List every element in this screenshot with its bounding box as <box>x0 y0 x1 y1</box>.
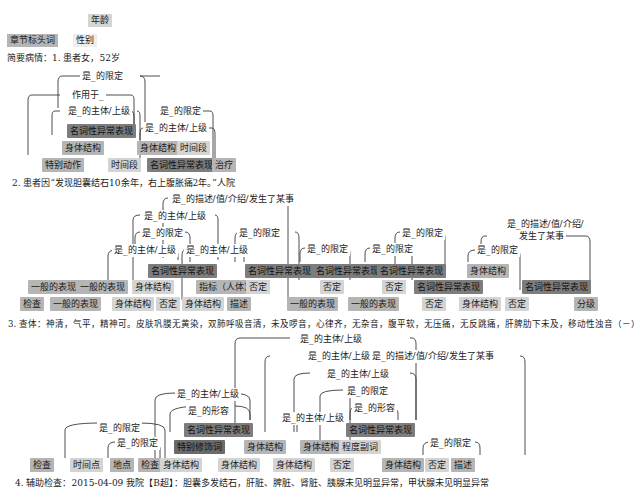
entity-tag[interactable]: 否定 <box>156 297 180 311</box>
relation-label: 是_的限定 <box>97 422 142 435</box>
entity-tag[interactable]: 名词性异常表现 <box>67 124 136 138</box>
entity-tag[interactable]: 检查 <box>20 297 44 311</box>
relation-label: 是_的限定 <box>158 105 203 118</box>
relation-label: 是_的限定 <box>475 244 520 257</box>
sentence-3: 3. 查体：神清，气平，精神可。皮肤巩膜无黄染，双肺呼吸音清，未及啰音，心律齐，… <box>8 318 639 330</box>
entity-tag[interactable]: 身体结构 <box>467 264 509 278</box>
entity-tag[interactable]: 否定 <box>330 458 354 472</box>
relation-label: 是_的主体/上级 <box>112 244 178 257</box>
entity-tag[interactable]: 名词性异常表现 <box>147 158 216 172</box>
relation-label: 发生了某事 <box>517 230 566 243</box>
entity-tag[interactable]: 程度副词 <box>339 440 381 454</box>
entity-tag[interactable]: 否定 <box>422 297 446 311</box>
entity-tag[interactable]: 否定 <box>382 280 406 294</box>
entity-tag[interactable]: 分级 <box>574 297 598 311</box>
entity-tag[interactable]: 名词性异常表现 <box>184 423 253 437</box>
entity-tag[interactable]: 身体结构 <box>160 458 202 472</box>
entity-tag[interactable]: 身体结构 <box>62 141 104 155</box>
entity-tag[interactable]: 检查 <box>138 458 162 472</box>
sentence-4: 4. 辅助检查：2015-04-09 我院【B超】：胆囊多发结石，肝脏、脾脏、肾… <box>15 477 489 489</box>
entity-tag[interactable]: 时间段 <box>177 141 210 155</box>
entity-tag[interactable]: 一般的表现 <box>28 280 79 294</box>
entity-tag[interactable]: 否定 <box>246 280 270 294</box>
relation-label: 是_的限定 <box>237 227 282 240</box>
entity-tag[interactable]: 名词性异常表现 <box>377 264 446 278</box>
entity-tag[interactable]: 一般的表现 <box>287 297 338 311</box>
entity-tag[interactable]: 名词性异常表现 <box>522 280 591 294</box>
entity-tag[interactable]: 身体结构 <box>273 458 315 472</box>
relation-label: 是_的限定 <box>80 70 125 83</box>
entity-tag[interactable]: 特别动作 <box>42 158 84 172</box>
relation-label: 是_的限定 <box>400 227 445 240</box>
entity-tag[interactable]: 描述 <box>227 297 251 311</box>
entity-tag[interactable]: 名词性异常表现 <box>245 264 314 278</box>
entity-tag[interactable]: 名词性异常表现 <box>414 280 483 294</box>
entity-tag[interactable]: 检查 <box>30 458 54 472</box>
entity-tag[interactable]: 一般的表现 <box>50 297 101 311</box>
entity-tag[interactable]: 治疗 <box>212 158 236 172</box>
entity-tag[interactable]: 时间点 <box>70 458 103 472</box>
relation-label: 是_的主体/上级 <box>142 210 208 223</box>
entity-tag[interactable]: 身体结构 <box>300 440 342 454</box>
relation-label: 是_的主体/上级 <box>175 388 241 401</box>
sentence-1: 简要病情：1. 患者女，52岁 <box>7 52 120 64</box>
entity-tag[interactable]: 否定 <box>425 458 449 472</box>
relation-label: 作用于_ <box>70 89 106 102</box>
relation-label: 是_的限定 <box>345 385 390 398</box>
relation-label: 是_的主体/上级 <box>306 350 372 363</box>
entity-tag[interactable]: 身体结构 <box>132 280 174 294</box>
sentence-2: 2. 患者因“发现胆囊结石10余年，右上腹胀痛2年。”人院 <box>12 177 235 189</box>
entity-tag[interactable]: 否定 <box>505 297 529 311</box>
relation-label: 是_的主体/上级 <box>184 244 250 257</box>
entity-tag[interactable]: 名词性异常表现 <box>346 423 415 437</box>
entity-tag[interactable]: 特别修饰词 <box>174 440 225 454</box>
relation-label: 是_的主体/上级 <box>325 368 391 381</box>
relation-label: 是_的描述/值/介绍/发生了某事 <box>370 350 496 363</box>
entity-tag[interactable]: 名词性异常表现 <box>148 264 217 278</box>
entity-tag[interactable]: 时间段 <box>108 158 141 172</box>
relation-label: 是_的描述/值/介绍/发生了某事 <box>170 193 296 206</box>
entity-tag[interactable]: 一般的表现 <box>348 297 399 311</box>
entity-tag[interactable]: 地点 <box>110 458 134 472</box>
entity-tag[interactable]: 身体结构 <box>244 440 286 454</box>
relation-label: 是_的主体/上级 <box>280 412 346 425</box>
relation-label: 是_的主体/上级 <box>66 105 132 118</box>
entity-tag[interactable]: 身体结构 <box>112 297 154 311</box>
entity-tag[interactable]: 否定 <box>320 280 344 294</box>
relation-label: 是_的限定 <box>428 437 473 450</box>
entity-tag[interactable]: 身体结构 <box>137 141 179 155</box>
relation-label: 是_的主体/上级 <box>298 333 364 346</box>
relation-label: 是_的限定 <box>140 227 185 240</box>
entity-tag[interactable]: 一般的表现 <box>77 280 128 294</box>
relation-label: 是_的主体/上级 <box>143 122 209 135</box>
entity-tag[interactable]: 描述 <box>451 458 475 472</box>
entity-tag[interactable]: 身体结构 <box>218 458 260 472</box>
entity-tag[interactable]: 身体结构 <box>382 458 424 472</box>
entity-tag[interactable]: 名词性异常表现 <box>313 264 382 278</box>
relation-label: 是_的限定 <box>305 243 350 256</box>
entity-tag[interactable]: 身体结构 <box>459 297 501 311</box>
entity-tag[interactable]: 身体结构 <box>182 297 224 311</box>
relation-label: 是_的形容 <box>186 405 231 418</box>
relation-label: 是_的限定 <box>115 437 160 450</box>
relation-label: 是_的形容 <box>352 402 397 415</box>
relation-label: 是_的限定 <box>370 243 415 256</box>
